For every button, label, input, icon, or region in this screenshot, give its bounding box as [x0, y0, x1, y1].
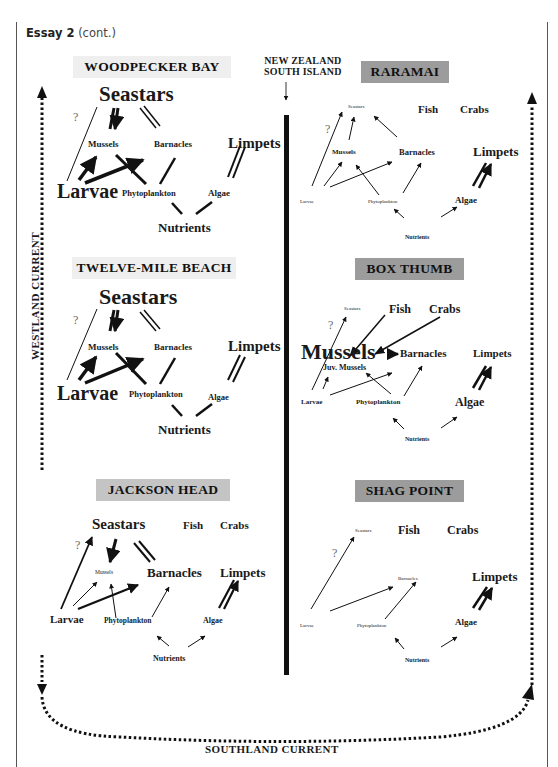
node-larvae: Larvae	[50, 614, 84, 625]
node-juv-mussels: Juv. Mussels	[323, 364, 366, 372]
node-crabs: Crabs	[429, 303, 460, 315]
node-nutrients: Nutrients	[405, 234, 429, 240]
node-mussels: Mussels	[301, 341, 376, 363]
node-mussels: Mussels	[88, 343, 119, 352]
node-algae: Algae	[455, 618, 477, 627]
node-mussels: Mussels	[95, 570, 113, 576]
node-nutrients: Nutrients	[405, 436, 429, 442]
node-phytoplankton: Phytoplankton	[129, 390, 183, 399]
node-seastars: Seastars	[99, 84, 174, 105]
node-seastars: Seastars	[344, 306, 360, 311]
node-seastars: Seastars	[99, 286, 177, 308]
node-phytoplankton: Phytoplankton	[122, 189, 176, 198]
node-phytoplankton: Phytoplankton	[356, 399, 400, 406]
node-barnacles: Barnacles	[147, 566, 202, 579]
node-barnacles: Barnacles	[399, 148, 435, 157]
southland-current-label: SOUTHLAND CURRENT	[205, 743, 339, 755]
node-barnacles: Barnacles	[154, 140, 192, 149]
island-label-line2: SOUTH ISLAND	[264, 66, 342, 77]
node-larvae: Larvae	[300, 623, 314, 628]
node-algae: Algae	[455, 396, 484, 408]
node-fish: Fish	[398, 524, 420, 536]
node-fish: Fish	[418, 104, 438, 115]
node-seastars: Seastars	[348, 104, 364, 109]
node-phytoplankton: Phytoplankton	[357, 623, 386, 628]
node-fish: Fish	[183, 520, 203, 531]
unknown-link-mark: ?	[73, 313, 78, 328]
node-larvae: Larvae	[57, 181, 118, 201]
node-nutrients: Nutrients	[158, 221, 211, 234]
island-label: NEW ZEALAND SOUTH ISLAND	[264, 55, 342, 77]
node-crabs: Crabs	[220, 520, 249, 531]
node-algae: Algae	[208, 393, 229, 402]
node-phytoplankton: Phytoplankton	[104, 617, 152, 625]
unknown-link-mark: ?	[73, 110, 78, 125]
node-limpets: Limpets	[220, 566, 266, 579]
node-algae: Algae	[208, 189, 230, 198]
node-limpets: Limpets	[473, 145, 519, 158]
unknown-link-mark: ?	[75, 538, 80, 553]
westland-current-label: WESTLAND CURRENT	[29, 221, 41, 371]
node-seastars: Seastars	[92, 517, 145, 532]
node-algae: Algae	[203, 617, 223, 625]
node-phytoplankton: Phytoplankton	[368, 199, 397, 204]
site-title: SHAG POINT	[355, 480, 464, 502]
node-limpets: Limpets	[228, 136, 281, 151]
unknown-link-mark: ?	[325, 122, 330, 137]
node-fish: Fish	[389, 303, 411, 315]
node-nutrients: Nutrients	[153, 655, 185, 663]
node-nutrients: Nutrients	[405, 657, 429, 663]
node-algae: Algae	[455, 196, 477, 205]
node-barnacles: Barnacles	[154, 343, 192, 352]
site-title: RARAMAI	[361, 61, 449, 83]
node-mussels: Mussels	[88, 140, 119, 149]
node-seastars: Seastars	[355, 528, 371, 533]
node-crabs: Crabs	[447, 524, 478, 536]
site-title: TWELVE-MILE BEACH	[72, 257, 236, 279]
node-barnacles: Barnacles	[398, 576, 418, 581]
island-label-line1: NEW ZEALAND	[264, 55, 342, 66]
node-limpets: Limpets	[473, 348, 512, 359]
island-divider	[284, 115, 289, 675]
site-title: BOX THUMB	[355, 258, 464, 280]
unknown-link-mark: ?	[328, 318, 333, 333]
node-larvae: Larvae	[57, 383, 118, 403]
site-title: JACKSON HEAD	[96, 479, 230, 501]
unknown-link-mark: ?	[332, 546, 337, 561]
node-nutrients: Nutrients	[158, 423, 211, 436]
node-larvae: Larvae	[300, 199, 314, 204]
site-title: WOODPECKER BAY	[73, 56, 231, 78]
node-limpets: Limpets	[472, 570, 518, 583]
node-limpets: Limpets	[228, 339, 281, 354]
node-mussels: Mussels	[332, 149, 356, 156]
node-crabs: Crabs	[460, 104, 489, 115]
node-larvae: Larvae	[301, 399, 322, 406]
node-barnacles: Barnacles	[400, 348, 446, 359]
